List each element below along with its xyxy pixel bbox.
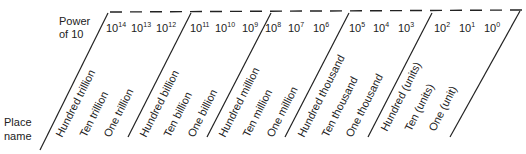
top-dashed-line bbox=[110, 10, 522, 12]
power-10-5: 105 bbox=[349, 21, 365, 34]
power-10-6: 106 bbox=[313, 21, 329, 34]
power-10-4: 104 bbox=[373, 21, 389, 34]
power-10-2: 102 bbox=[434, 21, 450, 34]
place-header-line2: name bbox=[4, 130, 32, 142]
power-10-11: 1011 bbox=[190, 21, 210, 34]
place-names-row: Hundred trillion Ten trillion One trilli… bbox=[53, 53, 459, 139]
power-10-7: 107 bbox=[288, 21, 304, 34]
power-10-9: 109 bbox=[242, 21, 258, 34]
power-10-10: 1010 bbox=[215, 21, 235, 34]
powers-row: 1014 1013 1012 1011 1010 109 108 107 106… bbox=[106, 21, 500, 34]
power-10-8: 108 bbox=[265, 21, 281, 34]
power-10-14: 1014 bbox=[106, 21, 126, 34]
place-value-diagram: Power of 10 Place name 1014 1013 1012 10… bbox=[0, 0, 526, 154]
power-10-13: 1013 bbox=[131, 21, 151, 34]
power-header-line2: of 10 bbox=[59, 28, 83, 40]
power-10-1: 101 bbox=[459, 21, 475, 34]
power-10-0: 100 bbox=[484, 21, 500, 34]
place-header-line1: Place bbox=[4, 116, 32, 128]
power-header-line1: Power bbox=[59, 15, 91, 27]
power-10-12: 1012 bbox=[156, 21, 176, 34]
power-10-3: 103 bbox=[398, 21, 414, 34]
